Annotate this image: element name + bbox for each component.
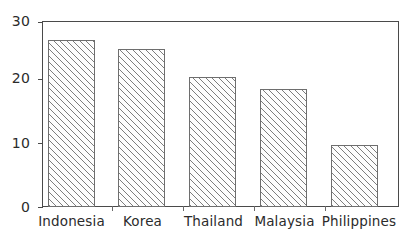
bar-malaysia[interactable] — [260, 89, 307, 207]
y-tick-label-10: 10 — [0, 136, 30, 150]
x-axis-label-malaysia: Malaysia — [246, 212, 323, 230]
bar-korea[interactable] — [118, 49, 165, 207]
x-axis-labels: Indonesia Korea Thailand Malaysia Philip… — [42, 212, 399, 238]
x-axis-label-indonesia: Indonesia — [33, 212, 110, 230]
y-axis-labels: 30 20 10 0 — [0, 0, 30, 242]
bars-layer — [42, 21, 399, 207]
x-axis-label-philippines: Philippines — [314, 212, 404, 230]
bar-chart: 30 20 10 0 Indonesia Korea Thailand Mala… — [0, 0, 416, 242]
x-axis-label-thailand: Thailand — [175, 212, 252, 230]
bar-thailand[interactable] — [189, 77, 236, 207]
y-tick-label-30: 30 — [0, 14, 30, 28]
x-axis-label-korea: Korea — [104, 212, 181, 230]
bar-philippines[interactable] — [331, 145, 378, 207]
y-tick-label-20: 20 — [0, 71, 30, 85]
y-tick-mark-0 — [38, 207, 43, 208]
y-tick-label-0: 0 — [0, 200, 30, 214]
bar-indonesia[interactable] — [48, 40, 95, 207]
